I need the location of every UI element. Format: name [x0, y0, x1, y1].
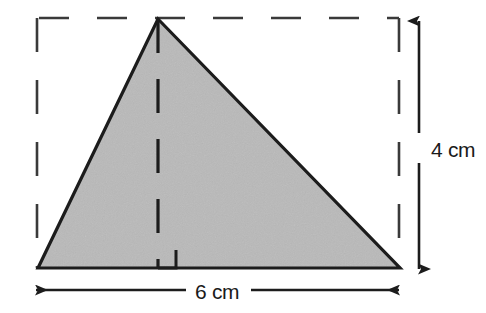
height-dimension-label: 4 cm	[427, 136, 477, 163]
base-dimension-label: 6 cm	[189, 279, 245, 304]
triangle-fill	[38, 19, 400, 268]
figure-canvas	[0, 0, 486, 313]
geometry-figure: 4 cm 6 cm	[0, 0, 486, 313]
